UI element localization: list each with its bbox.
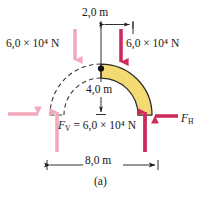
left-load-label: 6,0 × 10⁴ N	[6, 38, 59, 50]
fv-symbol: F	[58, 119, 65, 131]
right-load-label: 6,0 × 10⁴ N	[126, 38, 179, 50]
fh-subscript: H	[188, 117, 193, 126]
top-dimension-label: 2,0 m	[82, 7, 108, 19]
fv-subscript: V	[65, 124, 70, 133]
diagram-canvas	[0, 0, 205, 199]
horizontal-reaction-label: FH	[181, 113, 194, 125]
arch-force-diagram: 2,0 m 6,0 × 10⁴ N 6,0 × 10⁴ N 4,0 m FV =…	[0, 0, 205, 199]
figure-caption: (a)	[94, 176, 107, 188]
bottom-dimension-label: 8,0 m	[85, 155, 111, 167]
vertical-reaction-label: FV = 6,0 × 10⁴ N	[58, 120, 136, 132]
height-dimension-label: 4,0 m	[86, 84, 112, 96]
fv-value: = 6,0 × 10⁴ N	[73, 119, 136, 131]
fh-symbol: F	[181, 112, 188, 124]
